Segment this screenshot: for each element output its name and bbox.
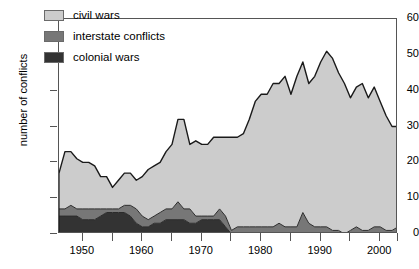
y-axis-title: number of conflicts <box>17 25 29 175</box>
legend-swatch-interstate-conflicts <box>44 31 64 42</box>
x-tick-label: 1960 <box>111 244 171 256</box>
x-tick-mark-major <box>379 233 380 241</box>
legend-label-colonial-wars: colonial wars <box>73 51 139 63</box>
x-tick-mark-major <box>201 233 202 241</box>
x-tick-mark-major <box>320 233 321 241</box>
legend-swatch-civil-wars <box>44 10 64 21</box>
y-tick-mark <box>50 233 57 234</box>
conflicts-area-chart: number of conflicts 0102030405060 195019… <box>0 0 419 269</box>
legend-item-colonial-wars: colonial wars <box>44 48 165 66</box>
x-tick-mark-minor <box>112 233 113 241</box>
x-tick-mark-minor <box>290 233 291 241</box>
legend-item-civil-wars: civil wars <box>44 6 165 24</box>
x-tick-label: 1990 <box>290 244 350 256</box>
x-tick-mark-major <box>260 233 261 241</box>
x-tick-label: 2000 <box>349 244 409 256</box>
x-tick-mark-major <box>141 233 142 241</box>
y-tick-mark <box>50 126 57 127</box>
legend-item-interstate-conflicts: interstate conflicts <box>44 27 165 45</box>
y-tick-mark <box>50 90 57 91</box>
area-civil-wars <box>59 51 397 233</box>
y-tick-mark <box>50 161 57 162</box>
x-tick-label: 1980 <box>230 244 290 256</box>
x-tick-label: 1950 <box>52 244 112 256</box>
y-tick-mark <box>50 197 57 198</box>
x-tick-mark-minor <box>171 233 172 241</box>
x-tick-mark-minor <box>397 233 398 241</box>
legend-label-interstate-conflicts: interstate conflicts <box>73 30 165 42</box>
x-tick-label: 1970 <box>171 244 231 256</box>
chart-legend: civil wars interstate conflicts colonial… <box>44 6 165 69</box>
legend-label-civil-wars: civil wars <box>73 9 120 21</box>
x-tick-mark-minor <box>349 233 350 241</box>
legend-swatch-colonial-wars <box>44 52 64 63</box>
x-tick-mark-major <box>82 233 83 241</box>
x-tick-mark-minor <box>230 233 231 241</box>
